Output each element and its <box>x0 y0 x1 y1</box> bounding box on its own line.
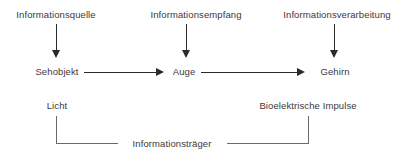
node-auge: Auge <box>173 66 196 78</box>
arrow-shaft <box>56 24 57 51</box>
bracket-left-horizontal <box>56 143 118 144</box>
arrow-shaft <box>84 72 157 73</box>
label-informationstraeger: Informationsträger <box>133 138 212 150</box>
label-informationsverarbeitung: Informationsverarbeitung <box>283 9 390 21</box>
label-informationsquelle: Informationsquelle <box>16 9 95 21</box>
node-sehobjekt: Sehobjekt <box>35 66 78 78</box>
arrow-down-to-auge <box>182 24 191 58</box>
label-licht: Licht <box>47 100 68 112</box>
arrow-shaft <box>334 24 335 51</box>
bracket-right-vertical <box>308 116 309 144</box>
arrow-down-to-gehirn <box>330 24 339 58</box>
bracket-left-vertical <box>56 116 57 144</box>
arrow-shaft <box>186 24 187 51</box>
arrow-sehobjekt-to-auge <box>84 68 164 77</box>
arrow-head <box>297 68 305 76</box>
diagram-canvas: Informationsquelle Informationsempfang I… <box>0 0 408 162</box>
arrow-head <box>156 68 164 76</box>
arrow-shaft <box>201 72 298 73</box>
arrow-head <box>52 50 60 58</box>
label-informationsempfang: Informationsempfang <box>150 9 241 21</box>
node-gehirn: Gehirn <box>320 66 349 78</box>
arrow-head <box>330 50 338 58</box>
label-bioelektrische-impulse: Bioelektrische Impulse <box>259 100 356 112</box>
arrow-auge-to-gehirn <box>201 68 305 77</box>
arrow-head <box>182 50 190 58</box>
arrow-down-to-sehobjekt <box>52 24 61 58</box>
bracket-right-horizontal <box>227 143 309 144</box>
